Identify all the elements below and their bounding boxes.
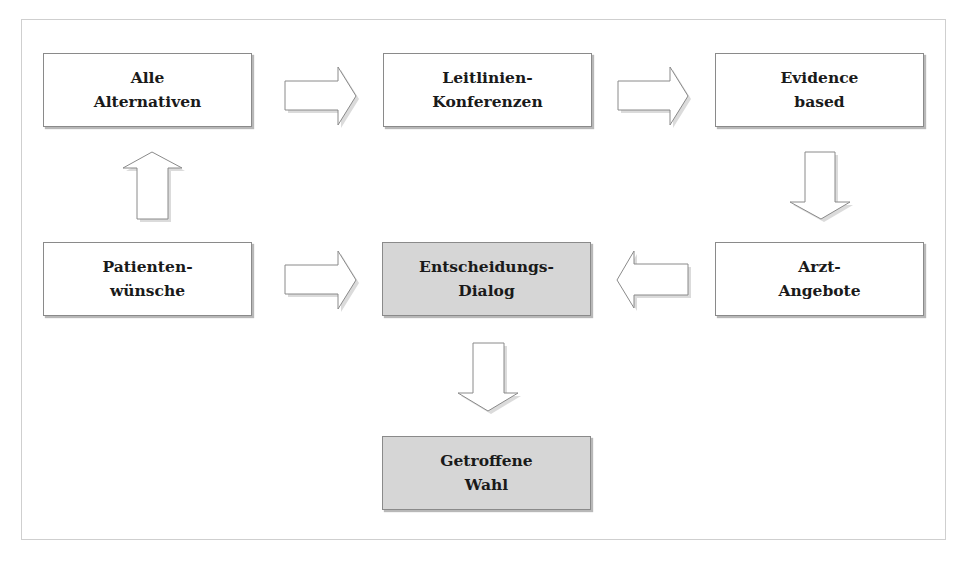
node-label-line1: Entscheidungs- [419,255,554,279]
node-label-line2: based [794,90,844,114]
node-label-line2: Konferenzen [432,90,543,114]
node-getroffene-wahl: Getroffene Wahl [382,436,591,510]
node-label-line1: Evidence [781,66,859,90]
node-label-line1: Patienten- [102,255,192,279]
node-leitlinien-konferenzen: Leitlinien- Konferenzen [383,53,592,127]
node-entscheidungs-dialog: Entscheidungs- Dialog [382,242,591,316]
node-evidence-based: Evidence based [715,53,924,127]
node-patientenwuensche: Patienten- wünsche [43,242,252,316]
node-alle-alternativen: Alle Alternativen [43,53,252,127]
node-label-line1: Leitlinien- [442,66,532,90]
node-label-line2: wünsche [110,279,185,303]
node-label-line1: Alle [131,66,165,90]
node-label-line1: Getroffene [440,449,532,473]
node-arzt-angebote: Arzt- Angebote [715,242,924,316]
node-label-line2: Wahl [465,473,508,497]
node-label-line2: Dialog [458,279,514,303]
node-label-line2: Angebote [778,279,860,303]
node-label-line1: Arzt- [798,255,841,279]
node-label-line2: Alternativen [94,90,202,114]
